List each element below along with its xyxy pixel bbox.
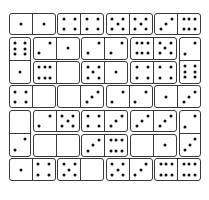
domino-half-0 bbox=[131, 135, 153, 156]
pip-icon bbox=[25, 90, 28, 93]
domino-4-4[interactable] bbox=[57, 13, 104, 36]
domino-4-4[interactable] bbox=[130, 61, 177, 84]
domino-0-1[interactable] bbox=[130, 134, 177, 157]
pip-icon bbox=[49, 76, 52, 79]
pip-icon bbox=[13, 47, 16, 50]
domino-half-0 bbox=[34, 135, 56, 156]
domino-half-2 bbox=[34, 38, 56, 59]
pip-icon bbox=[62, 163, 65, 166]
domino-half-4 bbox=[153, 62, 176, 83]
domino-3-3[interactable] bbox=[130, 110, 177, 133]
domino-0-0[interactable] bbox=[33, 134, 80, 157]
pip-icon bbox=[194, 115, 197, 118]
pip-icon bbox=[86, 125, 89, 128]
domino-5-1[interactable] bbox=[81, 61, 128, 84]
domino-6-5[interactable] bbox=[130, 37, 177, 60]
pip-icon bbox=[122, 163, 125, 166]
domino-2-3[interactable] bbox=[179, 110, 202, 157]
pip-icon bbox=[96, 90, 99, 93]
domino-half-0 bbox=[56, 135, 79, 156]
pip-icon bbox=[134, 173, 137, 176]
pip-icon bbox=[13, 149, 16, 152]
pip-icon bbox=[97, 66, 100, 69]
pip-icon bbox=[24, 47, 27, 50]
pip-icon bbox=[194, 65, 197, 68]
pip-icon bbox=[165, 22, 168, 25]
domino-2-6[interactable] bbox=[179, 37, 202, 84]
domino-5-0[interactable] bbox=[57, 158, 104, 181]
domino-1-3[interactable] bbox=[154, 85, 201, 108]
pip-icon bbox=[49, 66, 52, 69]
pip-icon bbox=[13, 42, 16, 45]
pip-icon bbox=[159, 163, 162, 166]
pip-icon bbox=[182, 100, 185, 103]
pip-icon bbox=[193, 90, 196, 93]
pip-icon bbox=[61, 114, 64, 117]
domino-4-0[interactable] bbox=[9, 85, 56, 108]
pip-icon bbox=[159, 28, 162, 31]
pip-icon bbox=[111, 163, 114, 166]
pip-icon bbox=[188, 143, 191, 146]
pip-icon bbox=[38, 52, 41, 55]
pip-icon bbox=[24, 42, 27, 45]
pip-icon bbox=[135, 41, 138, 44]
pip-icon bbox=[120, 149, 123, 152]
pip-icon bbox=[62, 17, 65, 20]
pip-icon bbox=[37, 173, 40, 176]
pip-icon bbox=[122, 28, 125, 31]
pip-icon bbox=[146, 52, 149, 55]
pip-icon bbox=[158, 125, 161, 128]
pip-icon bbox=[24, 53, 27, 56]
domino-half-5 bbox=[58, 159, 80, 180]
domino-half-2 bbox=[107, 86, 129, 107]
pip-icon bbox=[19, 168, 22, 171]
pip-icon bbox=[73, 17, 76, 20]
pip-icon bbox=[66, 120, 69, 123]
pip-icon bbox=[135, 125, 138, 128]
pip-icon bbox=[73, 173, 76, 176]
pip-icon bbox=[116, 168, 119, 171]
pip-icon bbox=[164, 120, 167, 123]
pip-icon bbox=[66, 47, 69, 50]
pip-icon bbox=[122, 90, 125, 93]
pip-icon bbox=[85, 17, 88, 20]
domino-half-0 bbox=[80, 159, 103, 180]
pip-icon bbox=[19, 22, 22, 25]
domino-1-1[interactable] bbox=[9, 13, 56, 36]
pip-icon bbox=[194, 42, 197, 45]
domino-half-2 bbox=[34, 111, 56, 132]
domino-2-5[interactable] bbox=[33, 110, 80, 133]
pip-icon bbox=[62, 173, 65, 176]
domino-0-3[interactable] bbox=[57, 85, 104, 108]
domino-half-3 bbox=[177, 86, 200, 107]
domino-half-6 bbox=[34, 62, 56, 83]
pip-icon bbox=[61, 125, 64, 128]
pip-icon bbox=[62, 28, 65, 31]
domino-1-4[interactable] bbox=[9, 158, 56, 181]
domino-half-1 bbox=[10, 60, 31, 83]
domino-half-1 bbox=[10, 14, 32, 35]
pip-icon bbox=[111, 28, 114, 31]
domino-2-1[interactable] bbox=[33, 37, 80, 60]
domino-3-6[interactable] bbox=[81, 134, 128, 157]
domino-0-2[interactable] bbox=[9, 110, 32, 157]
domino-half-5 bbox=[107, 159, 129, 180]
pip-icon bbox=[86, 149, 89, 152]
pip-icon bbox=[73, 28, 76, 31]
domino-half-6 bbox=[177, 14, 200, 35]
pip-icon bbox=[146, 66, 149, 69]
domino-2-2[interactable] bbox=[81, 37, 128, 60]
pip-icon bbox=[188, 17, 191, 20]
pip-icon bbox=[146, 76, 149, 79]
domino-4-3[interactable] bbox=[81, 110, 128, 133]
domino-5-3[interactable] bbox=[106, 158, 153, 181]
domino-6-6[interactable] bbox=[154, 158, 201, 181]
domino-6-1[interactable] bbox=[9, 37, 32, 84]
pip-icon bbox=[116, 22, 119, 25]
domino-2-2[interactable] bbox=[106, 85, 153, 108]
domino-6-0[interactable] bbox=[33, 61, 80, 84]
domino-half-0 bbox=[32, 86, 55, 107]
domino-3-6[interactable] bbox=[154, 13, 201, 36]
pip-icon bbox=[188, 173, 191, 176]
domino-5-5[interactable] bbox=[106, 13, 153, 36]
